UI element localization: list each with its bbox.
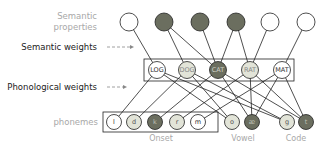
phoneme-nodes xyxy=(107,115,314,130)
semantic-node-6 xyxy=(297,13,315,31)
phoneme-label-r: r xyxy=(176,118,179,126)
onset-label: Onset xyxy=(149,134,173,143)
phoneme-label-ae: æ xyxy=(249,118,256,126)
phoneme-label-k: k xyxy=(153,118,157,126)
semantic-property-nodes xyxy=(120,13,315,31)
phoneme-label-d: d xyxy=(132,118,136,126)
semantic-node-5 xyxy=(261,13,279,31)
semantic-weights-arrow xyxy=(107,45,134,49)
phonological-weight-lines xyxy=(114,70,306,122)
phoneme-label-m: m xyxy=(195,118,201,126)
word-label-dog: DOG xyxy=(179,66,194,74)
phoneme-label-l: l xyxy=(113,118,115,126)
semantic-node-2 xyxy=(155,13,173,31)
code-label: Code xyxy=(286,134,307,143)
semantic-node-3 xyxy=(191,13,209,31)
phonological-weights-label: Phonological weights xyxy=(7,82,97,92)
phoneme-label-o: o xyxy=(230,118,234,126)
phonemes-label: phonemes xyxy=(53,117,98,127)
semantic-properties-label: Semantic xyxy=(57,11,97,21)
semantic-node-1 xyxy=(120,13,138,31)
word-label-log: LOG xyxy=(150,66,164,74)
phonological-weights-arrow xyxy=(107,85,127,89)
semantic-weights-label: Semantic weights xyxy=(21,42,97,52)
word-label-rat: RAT xyxy=(244,66,256,74)
network-diagram: Semantic properties Semantic weights Pho… xyxy=(0,0,332,145)
word-label-mat: MAT xyxy=(275,66,289,74)
semantic-node-4 xyxy=(227,13,245,31)
phoneme-label-g: g xyxy=(285,118,289,126)
semantic-properties-label-line2: properties xyxy=(54,22,98,32)
vowel-label: Vowel xyxy=(231,134,254,143)
word-label-cat: CAT xyxy=(212,66,224,74)
phoneme-label-t: t xyxy=(305,118,308,126)
